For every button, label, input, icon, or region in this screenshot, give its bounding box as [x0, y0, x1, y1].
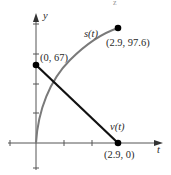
point-label-top: (2.9, 97.6): [106, 37, 150, 49]
v-line-label: v(t): [110, 121, 125, 133]
point-label-left: (0, 67): [40, 52, 68, 64]
point-2.9-0: [115, 140, 122, 147]
y-axis-arrow-icon: [33, 13, 39, 22]
v-line: [36, 65, 118, 143]
t-axis-label: t: [157, 144, 161, 155]
point-label-bottom: (2.9, 0): [104, 149, 135, 161]
point-0-67: [33, 62, 40, 69]
s-curve-label: s(t): [84, 28, 99, 40]
chart-canvas: y t s(t) v(t) (2.9, 97.6) (0, 67) (2.9, …: [0, 0, 171, 175]
top-fragment-label: z: [113, 0, 117, 7]
point-2.9-97.6: [115, 25, 122, 32]
y-axis-label: y: [42, 10, 48, 21]
